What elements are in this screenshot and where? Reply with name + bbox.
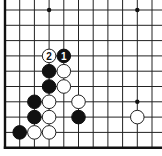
white-stone-icon	[57, 64, 71, 78]
white-stone-icon	[57, 80, 71, 94]
black-stone: 1	[57, 49, 71, 63]
white-stone-icon	[72, 95, 86, 109]
white-stone-icon	[42, 126, 56, 140]
white-stone	[131, 110, 145, 124]
black-stone	[28, 110, 42, 124]
white-stone-icon	[42, 110, 56, 124]
black-stone	[72, 110, 86, 124]
black-stone-icon	[42, 80, 56, 94]
white-stone: 2	[42, 49, 56, 63]
white-stone	[42, 126, 56, 140]
star-point-icon	[135, 8, 139, 12]
white-stone	[72, 95, 86, 109]
white-stone	[57, 64, 71, 78]
white-stone-icon	[131, 110, 145, 124]
grid-lines	[5, 0, 162, 148]
black-stone-icon	[28, 95, 42, 109]
black-stone-icon	[28, 110, 42, 124]
move-number: 2	[46, 51, 52, 62]
black-stone	[42, 80, 56, 94]
black-stone	[28, 95, 42, 109]
white-stone-icon	[42, 95, 56, 109]
black-stone-icon	[13, 126, 27, 140]
white-stone	[42, 110, 56, 124]
star-point-icon	[47, 8, 51, 12]
white-stone-icon	[28, 126, 42, 140]
go-board: 21	[0, 0, 162, 156]
black-stone	[13, 126, 27, 140]
star-point-icon	[135, 100, 139, 104]
white-stone	[42, 95, 56, 109]
move-number: 1	[61, 51, 67, 62]
board-edges	[4, 0, 162, 149]
white-stone	[28, 126, 42, 140]
black-stone-icon	[42, 64, 56, 78]
white-stone	[57, 80, 71, 94]
black-stone	[42, 64, 56, 78]
black-stone-icon	[72, 110, 86, 124]
